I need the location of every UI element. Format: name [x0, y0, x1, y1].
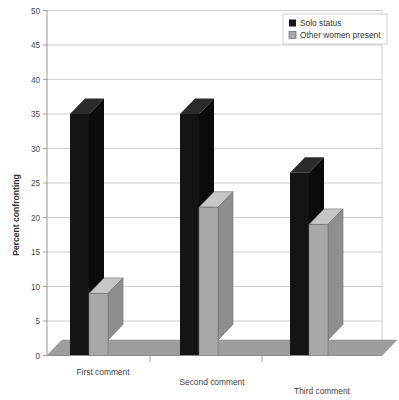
- x-axis-category-ticks: [150, 356, 262, 363]
- legend-label-other-women[interactable]: Other women present: [300, 30, 381, 40]
- y-tick-label: 25: [31, 179, 41, 188]
- chart-container: 50 45 40 35 30 25 20 15 10 5 0 Percent c…: [0, 0, 399, 400]
- bar-chart: 50 45 40 35 30 25 20 15 10 5 0 Percent c…: [0, 0, 399, 400]
- y-axis-title: Percent confronting: [11, 174, 21, 256]
- y-tick-label: 35: [31, 110, 41, 119]
- x-axis-category-labels: First comment Second comment Third comme…: [76, 367, 350, 396]
- category-label-second: Second comment: [179, 377, 245, 387]
- y-tick-label: 40: [31, 76, 41, 85]
- y-tick-label: 50: [31, 7, 41, 16]
- y-axis-tick-labels: 50 45 40 35 30 25 20 15 10 5 0: [31, 7, 41, 361]
- category-label-first: First comment: [76, 367, 130, 377]
- y-tick-label: 20: [31, 214, 41, 223]
- y-tick-label: 0: [35, 352, 40, 361]
- y-tick-label: 5: [35, 317, 40, 326]
- y-tick-label: 15: [31, 248, 41, 257]
- legend-label-solo-status[interactable]: Solo status: [300, 18, 341, 28]
- chart-legend[interactable]: Solo status Other women present: [283, 14, 387, 44]
- gray-square-icon: [289, 32, 296, 39]
- y-axis-ticks: [43, 11, 47, 356]
- y-tick-label: 45: [31, 41, 41, 50]
- black-square-icon: [289, 20, 296, 27]
- y-tick-label: 30: [31, 145, 41, 154]
- category-label-third: Third comment: [294, 386, 351, 396]
- y-tick-label: 10: [31, 283, 41, 292]
